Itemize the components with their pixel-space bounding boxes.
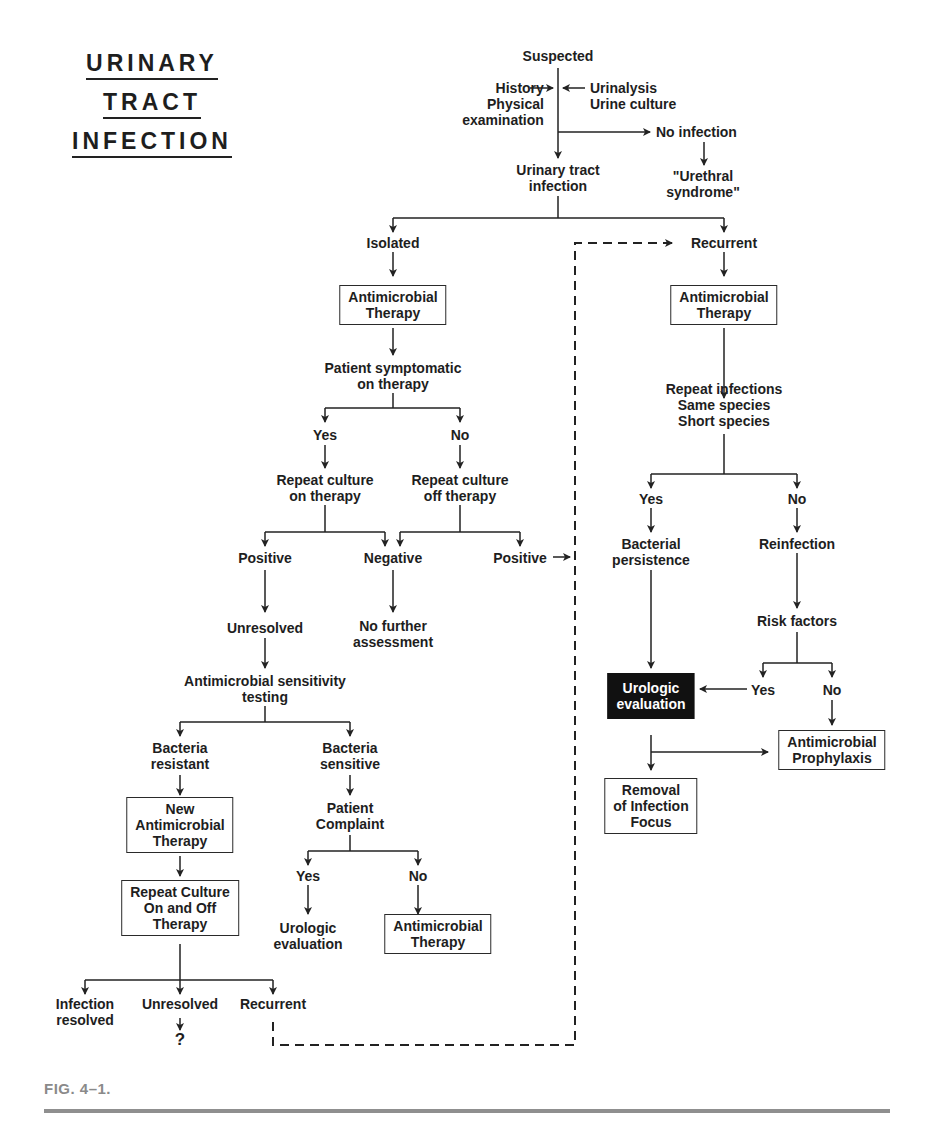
node-uti: Urinary tract infection: [516, 162, 599, 194]
node-isolated: Isolated: [367, 235, 420, 251]
node-patient-complaint: Patient Complaint: [316, 800, 384, 832]
title-line-1: URINARY: [86, 48, 218, 80]
node-recurrent-bottom: Recurrent: [240, 996, 306, 1012]
title-line-2: TRACT: [103, 87, 201, 119]
node-reinfection: Reinfection: [759, 536, 835, 552]
node-repeat-culture-off: Repeat culture off therapy: [411, 472, 508, 504]
box-antimicrobial-therapy-bottom: Antimicrobial Therapy: [384, 914, 491, 954]
node-urinalysis: Urinalysis Urine culture: [590, 80, 676, 112]
node-yes-risk: Yes: [751, 682, 775, 698]
box-repeat-culture-on-off: Repeat Culture On and Off Therapy: [121, 880, 239, 936]
node-no-further-assessment: No further assessment: [353, 618, 433, 650]
node-positive-on: Positive: [238, 550, 292, 566]
node-no-repeat: No: [788, 491, 807, 507]
node-no-infection: No infection: [656, 124, 737, 140]
node-repeat-infections: Repeat infections Same species Short spe…: [666, 381, 783, 429]
node-suspected: Suspected: [523, 48, 594, 64]
node-yes-symptomatic: Yes: [313, 427, 337, 443]
node-negative: Negative: [364, 550, 422, 566]
box-new-antimicrobial-therapy: New Antimicrobial Therapy: [126, 797, 233, 853]
node-infection-resolved: Infection resolved: [56, 996, 114, 1028]
node-question-mark: ?: [175, 1032, 185, 1048]
node-yes-complaint: Yes: [296, 868, 320, 884]
box-antimicrobial-therapy-recurrent: Antimicrobial Therapy: [670, 285, 777, 325]
node-bacteria-resistant: Bacteria resistant: [151, 740, 209, 772]
figure-caption: FIG. 4–1.: [44, 1080, 111, 1097]
caption-divider: [44, 1109, 890, 1113]
node-urethral-syndrome: "Urethral syndrome": [666, 168, 740, 200]
node-bacteria-sensitive: Bacteria sensitive: [320, 740, 380, 772]
node-risk-factors: Risk factors: [757, 613, 837, 629]
node-history: History Physical examination: [462, 80, 544, 128]
node-positive-off: Positive: [493, 550, 547, 566]
title-line-3: INFECTION: [72, 126, 232, 158]
node-yes-repeat: Yes: [639, 491, 663, 507]
node-urologic-evaluation-left: Urologic evaluation: [273, 920, 342, 952]
box-urologic-evaluation-highlight: Urologic evaluation: [607, 673, 694, 719]
node-no-complaint: No: [409, 868, 428, 884]
box-removal-infection-focus: Removal of Infection Focus: [604, 778, 697, 834]
box-antimicrobial-prophylaxis: Antimicrobial Prophylaxis: [778, 730, 885, 770]
node-unresolved: Unresolved: [227, 620, 303, 636]
node-no-symptomatic: No: [451, 427, 470, 443]
box-antimicrobial-therapy-isolated: Antimicrobial Therapy: [339, 285, 446, 325]
node-bacterial-persistence: Bacterial persistence: [612, 536, 690, 568]
diagram-title: URINARY TRACT INFECTION: [52, 44, 252, 161]
node-sensitivity-testing: Antimicrobial sensitivity testing: [184, 673, 346, 705]
node-recurrent: Recurrent: [691, 235, 757, 251]
node-patient-symptomatic: Patient symptomatic on therapy: [325, 360, 462, 392]
node-no-risk: No: [823, 682, 842, 698]
node-unresolved-bottom: Unresolved: [142, 996, 218, 1012]
node-repeat-culture-on: Repeat culture on therapy: [276, 472, 373, 504]
